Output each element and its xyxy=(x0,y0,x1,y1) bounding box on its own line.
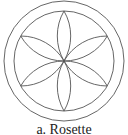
petals xyxy=(21,11,108,111)
figure-caption: a. Rosette xyxy=(0,123,128,135)
rosette-diagram xyxy=(0,0,128,135)
